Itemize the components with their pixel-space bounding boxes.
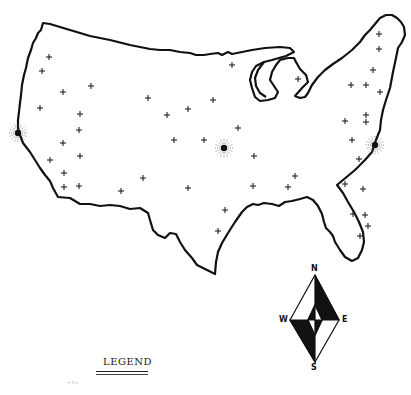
city-marker bbox=[77, 111, 83, 117]
compass-rose bbox=[290, 275, 339, 362]
legend-underline-secondary bbox=[96, 374, 148, 375]
compass-east-label: E bbox=[342, 315, 347, 324]
compass-south-label: S bbox=[311, 363, 317, 372]
city-marker bbox=[348, 82, 354, 88]
city-marker bbox=[118, 188, 124, 194]
major-city-east-coast-city bbox=[366, 136, 384, 154]
city-marker bbox=[342, 181, 348, 187]
city-marker bbox=[76, 127, 82, 133]
city-marker bbox=[362, 212, 368, 218]
city-marker bbox=[140, 175, 146, 181]
us-outline bbox=[18, 15, 405, 274]
city-marker bbox=[376, 31, 382, 37]
major-city-west-coast-city bbox=[9, 124, 27, 142]
city-marker bbox=[46, 54, 52, 60]
city-marker bbox=[61, 170, 67, 176]
city-marker bbox=[47, 157, 53, 163]
city-marker bbox=[61, 184, 67, 190]
city-marker bbox=[215, 228, 221, 234]
city-marker bbox=[356, 156, 362, 162]
city-marker bbox=[363, 119, 369, 125]
legend-underline bbox=[96, 371, 148, 372]
city-marker bbox=[222, 207, 228, 213]
city-marker bbox=[76, 183, 82, 189]
city-marker bbox=[145, 95, 151, 101]
city-marker bbox=[370, 67, 376, 73]
city-marker bbox=[185, 106, 191, 112]
legend-title: LEGEND bbox=[103, 356, 152, 367]
lake-michigan-outline bbox=[255, 62, 266, 97]
city-marker bbox=[377, 89, 383, 95]
city-marker bbox=[360, 186, 366, 192]
city-marker bbox=[250, 183, 256, 189]
city-marker bbox=[342, 118, 348, 124]
compass-north-label: N bbox=[311, 264, 318, 273]
legend-note: + 5 s bbox=[67, 380, 78, 385]
city-marker bbox=[39, 68, 45, 74]
city-marker bbox=[235, 125, 241, 131]
city-marker bbox=[60, 89, 66, 95]
city-marker bbox=[88, 83, 94, 89]
city-marker bbox=[77, 153, 83, 159]
city-marker bbox=[285, 184, 291, 190]
us-map bbox=[0, 0, 411, 395]
city-marker bbox=[210, 97, 216, 103]
major-city-markers bbox=[9, 124, 384, 157]
compass-west-label: W bbox=[279, 315, 288, 324]
major-city-central-city bbox=[215, 139, 233, 157]
city-marker bbox=[185, 185, 191, 191]
city-marker bbox=[363, 112, 369, 118]
city-marker bbox=[164, 112, 170, 118]
city-marker bbox=[365, 223, 371, 229]
city-marker bbox=[60, 140, 66, 146]
city-marker bbox=[292, 173, 298, 179]
city-marker bbox=[201, 137, 207, 143]
city-marker bbox=[376, 46, 382, 52]
city-marker bbox=[295, 76, 301, 82]
city-marker bbox=[251, 153, 257, 159]
city-marker bbox=[349, 137, 355, 143]
city-marker bbox=[363, 82, 369, 88]
city-marker bbox=[37, 105, 43, 111]
city-marker bbox=[171, 137, 177, 143]
city-marker bbox=[229, 62, 235, 68]
minor-city-markers bbox=[37, 31, 383, 239]
